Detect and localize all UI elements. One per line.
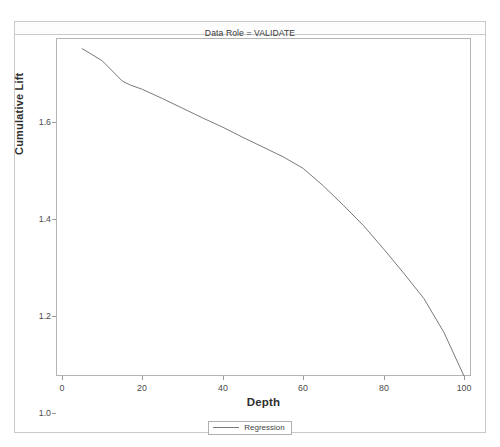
y-axis-ticks: 1.0 1.2 1.4 1.6	[15, 35, 51, 432]
legend-line-swatch-icon	[213, 427, 239, 428]
y-tick-label: 1.0	[39, 408, 51, 418]
x-tick-label: 80	[379, 383, 389, 393]
line-chart-plot	[56, 38, 473, 378]
x-tick-label: 0	[60, 383, 65, 393]
x-tick-label: 40	[218, 383, 228, 393]
legend-entry-regression[interactable]: Regression	[208, 421, 291, 435]
y-tick-label: 1.2	[39, 311, 51, 321]
chart-area: Cumulative Lift 1.0 1.2 1.4 1.6 0 20 40 …	[15, 35, 485, 432]
y-tick-mark	[52, 413, 56, 414]
y-tick-label: 1.6	[39, 117, 51, 127]
x-axis-title: Depth	[56, 396, 471, 408]
chart-title-band: Data Role = VALIDATE	[15, 22, 485, 35]
chart-panel: Data Role = VALIDATE Cumulative Lift 1.0…	[14, 21, 486, 433]
plot-frame	[56, 38, 471, 376]
chart-legend: Regression	[15, 421, 485, 435]
x-tick-label: 60	[298, 383, 308, 393]
legend-label: Regression	[244, 423, 284, 432]
x-tick-label: 100	[457, 383, 472, 393]
x-tick-label: 20	[137, 383, 147, 393]
series-line-regression	[82, 49, 464, 376]
y-tick-label: 1.4	[39, 214, 51, 224]
